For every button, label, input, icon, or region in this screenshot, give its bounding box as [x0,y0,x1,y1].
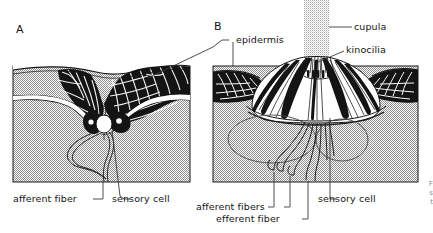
caption-fragment-line-2: s [429,189,433,198]
label-cupula: cupula [354,22,386,32]
panel-b-label: B [214,22,222,32]
label-sensory-cell-a: sensory cell [112,194,170,204]
label-sensory-cell-b: sensory cell [318,194,376,204]
label-efferent-fiber: efferent fiber [216,214,280,224]
label-epidermis: epidermis [236,35,284,45]
label-afferent-fibers: afferent fibers [196,202,265,212]
panel-a-label: A [16,25,24,35]
panel-a [13,62,190,199]
label-kinocilia: kinocilia [346,45,386,55]
leader-afferent-fiber-a [93,182,103,199]
cupula [304,0,329,57]
caption-fragment-line-1: F [429,180,433,189]
label-afferent-fiber: afferent fiber [13,194,77,204]
